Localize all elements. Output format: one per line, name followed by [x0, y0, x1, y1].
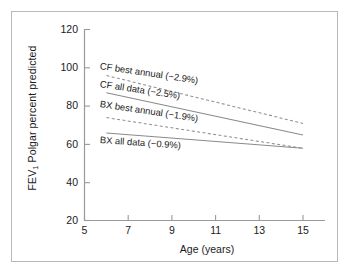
x-tick-label-7: 7: [116, 224, 140, 236]
x-tick-marks: [85, 215, 304, 221]
x-tick-label-5: 5: [73, 224, 97, 236]
x-axis-label: Age (years): [78, 243, 336, 255]
figure-container: 120 100 80 60 40 20 5 7 9 11 13 15 FEV1 …: [0, 0, 350, 275]
y-tick-label-120: 120: [50, 23, 78, 35]
y-tick-label-100: 100: [50, 61, 78, 73]
x-tick-label-15: 15: [291, 224, 315, 236]
x-tick-label-13: 13: [247, 224, 271, 236]
x-tick-label-11: 11: [204, 224, 228, 236]
y-tick-marks: [85, 30, 91, 221]
y-axis-label-prefix: FEV: [26, 170, 38, 191]
y-tick-label-80: 80: [50, 99, 78, 111]
x-tick-label-9: 9: [160, 224, 184, 236]
y-axis-label: FEV1 Polgar percent predicted: [26, 23, 38, 213]
y-axis-label-subscript: 1: [31, 165, 40, 169]
y-tick-label-60: 60: [50, 138, 78, 150]
y-tick-label-40: 40: [50, 176, 78, 188]
y-axis-label-suffix: Polgar percent predicted: [26, 46, 38, 166]
